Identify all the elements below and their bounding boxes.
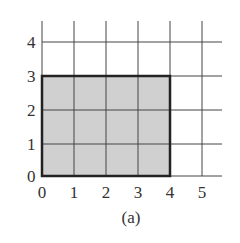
- x-axis-labels: 0 1 2 3 4 5: [38, 183, 207, 202]
- y-tick-3: 3: [27, 67, 36, 86]
- x-tick-5: 5: [198, 183, 207, 202]
- x-tick-0: 0: [38, 183, 47, 202]
- y-axis-labels: 0 1 2 3 4: [27, 33, 36, 186]
- y-tick-4: 4: [27, 33, 36, 52]
- x-tick-1: 1: [70, 183, 79, 202]
- figure-caption: (a): [122, 208, 141, 227]
- x-tick-4: 4: [166, 183, 175, 202]
- y-tick-2: 2: [27, 101, 36, 120]
- x-tick-3: 3: [134, 183, 143, 202]
- x-tick-2: 2: [102, 183, 111, 202]
- grid-figure: 0 1 2 3 4 0 1 2 3 4 5 (a): [0, 0, 240, 243]
- y-tick-1: 1: [27, 135, 36, 154]
- y-tick-0: 0: [27, 167, 36, 186]
